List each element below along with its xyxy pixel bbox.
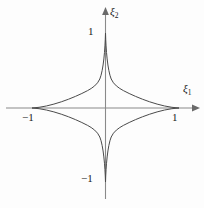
tick-label-x-positive: 1: [172, 112, 178, 123]
astroid-figure: ξ1 ξ2 1 −1 1 −1: [0, 0, 204, 208]
axis-label-xi2: ξ2: [110, 6, 118, 20]
plot-canvas: [0, 0, 204, 208]
tick-label-y-negative: −1: [81, 173, 93, 184]
axis-label-xi1-subscript: 1: [188, 88, 192, 97]
axis-label-xi1: ξ1: [183, 83, 191, 97]
axis-label-xi2-subscript: 2: [115, 11, 119, 20]
tick-label-y-positive: 1: [88, 26, 94, 37]
tick-label-x-negative: −1: [22, 112, 34, 123]
